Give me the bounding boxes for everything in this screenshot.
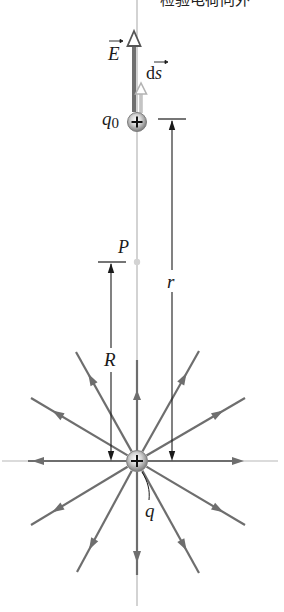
diagram-canvas — [0, 0, 284, 612]
electric-field-diagram: 检验电荷向外 E ds q0 P r R q — [0, 0, 284, 612]
label-r: r — [167, 272, 174, 291]
caption-fragment: 检验电荷向外 — [160, 0, 250, 8]
label-E: E — [108, 44, 120, 63]
label-q0-q: q — [102, 108, 112, 129]
source-charge-q — [127, 451, 148, 472]
field-line-arrowhead — [211, 411, 223, 421]
point-P-dot — [134, 259, 140, 265]
label-P: P — [118, 238, 129, 256]
field-line-arrowhead — [177, 538, 186, 550]
field-line-arrowhead — [89, 537, 98, 549]
label-q0-sub: 0 — [112, 115, 120, 131]
field-line-arrowhead — [88, 374, 97, 386]
E-vector-arrow — [128, 31, 141, 112]
field-line-arrowhead — [52, 411, 64, 421]
field-line-arrowhead — [52, 503, 64, 513]
field-line-diagonal — [77, 471, 132, 572]
label-q0: q0 — [102, 109, 119, 128]
label-ds-s: s — [155, 63, 162, 83]
field-line-diagonal — [31, 398, 128, 455]
field-line-diagonal — [31, 467, 128, 525]
test-charge-q0 — [128, 113, 147, 132]
field-line-arrowhead — [177, 373, 186, 385]
field-line-diagonal — [146, 467, 245, 525]
field-line-diagonal — [142, 471, 199, 573]
label-ds-d: d — [146, 63, 155, 83]
field-line-arrowhead — [211, 503, 223, 513]
field-line-diagonal — [142, 351, 199, 451]
label-ds: ds — [146, 64, 162, 82]
label-R: R — [104, 350, 116, 369]
field-line-diagonal — [147, 398, 245, 455]
label-q: q — [145, 501, 155, 520]
